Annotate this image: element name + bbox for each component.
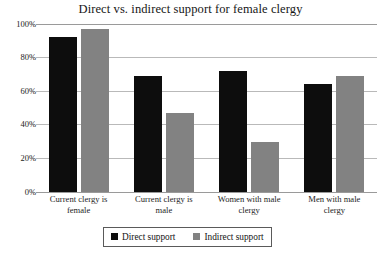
legend-label: Direct support: [122, 232, 175, 242]
x-axis-label-line: clergy: [207, 205, 292, 216]
bar-direct: [49, 37, 77, 192]
bar-direct: [304, 84, 332, 192]
legend-entry-indirect[interactable]: Indirect support: [193, 232, 263, 242]
bar-indirect: [166, 113, 194, 192]
y-tick-mark: [31, 124, 35, 125]
bar-group: [207, 24, 292, 192]
chart-title: Direct vs. indirect support for female c…: [0, 2, 381, 17]
plot-area: [36, 24, 377, 192]
y-tick-mark: [31, 158, 35, 159]
y-tick-mark: [31, 57, 35, 58]
legend-entry-direct[interactable]: Direct support: [111, 232, 175, 242]
x-axis-label: Women with maleclergy: [207, 194, 292, 215]
y-tick-mark: [31, 91, 35, 92]
bar-group: [36, 24, 121, 192]
chart-legend: Direct supportIndirect support: [103, 227, 272, 247]
bar-direct: [219, 71, 247, 192]
legend-label: Indirect support: [204, 232, 263, 242]
x-axis-label-line: clergy: [292, 205, 377, 216]
x-axis-label-line: Current clergy is: [36, 194, 121, 205]
bar-group: [121, 24, 206, 192]
x-axis-label-line: male: [121, 205, 206, 216]
y-tick-mark: [31, 24, 35, 25]
bar-chart: Direct vs. indirect support for female c…: [0, 0, 381, 253]
y-tick-mark: [31, 192, 35, 193]
x-axis-label-line: Men with male: [292, 194, 377, 205]
y-axis: 0%20%40%60%80%100%: [0, 24, 36, 192]
legend-swatch-icon: [111, 233, 118, 240]
x-axis-label-line: Current clergy is: [121, 194, 206, 205]
x-axis-label-line: female: [36, 205, 121, 216]
x-axis-label: Current clergy ismale: [121, 194, 206, 215]
bar-indirect: [251, 142, 279, 192]
x-axis-label: Men with maleclergy: [292, 194, 377, 215]
x-axis-label: Current clergy isfemale: [36, 194, 121, 215]
bar-indirect: [81, 29, 109, 192]
x-axis-labels: Current clergy isfemaleCurrent clergy is…: [36, 194, 377, 222]
bar-group: [292, 24, 377, 192]
legend-swatch-icon: [193, 233, 200, 240]
x-axis-label-line: Women with male: [207, 194, 292, 205]
bar-indirect: [336, 76, 364, 192]
bar-direct: [134, 76, 162, 192]
